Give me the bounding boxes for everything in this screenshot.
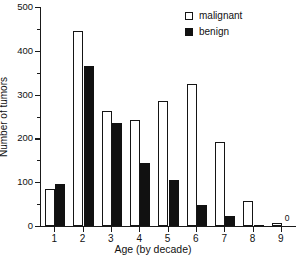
bar-malignant-9: [272, 223, 282, 226]
bar-malignant-3: [102, 111, 112, 226]
x-tick-mark: [83, 227, 84, 232]
x-tick-mark: [281, 227, 282, 232]
bar-malignant-2: [73, 31, 83, 226]
bar-benign-1: [55, 184, 65, 226]
bar-benign-6: [197, 205, 207, 226]
legend-swatch-benign-icon: [185, 28, 193, 36]
bar-benign-5: [169, 180, 179, 226]
legend: malignant benign: [185, 9, 242, 41]
y-tick-label: 300: [17, 90, 33, 100]
plot-area: 0: [41, 7, 296, 226]
y-minor-tick-mark: [37, 73, 40, 74]
legend-label-malignant: malignant: [199, 11, 242, 21]
x-tick-mark: [168, 227, 169, 232]
y-tick-label: 0: [28, 221, 33, 231]
y-tick-label: 500: [17, 2, 33, 12]
y-tick-label: 100: [17, 177, 33, 187]
x-tick-mark: [196, 227, 197, 232]
y-tick-mark: [35, 182, 40, 183]
y-minor-tick-mark: [37, 117, 40, 118]
legend-label-benign: benign: [199, 27, 229, 37]
y-tick-label: 400: [17, 46, 33, 56]
y-minor-tick-mark: [37, 29, 40, 30]
y-tick-mark: [35, 7, 40, 8]
y-minor-tick-mark: [37, 204, 40, 205]
bar-malignant-8: [243, 201, 253, 226]
legend-item-benign: benign: [185, 25, 242, 39]
bar-value-annotation: 0: [285, 214, 290, 223]
bar-chart-figure: Number of tumors 0100200300400500 0 1234…: [0, 0, 306, 259]
y-axis-label: Number of tumors: [0, 76, 9, 156]
bar-malignant-1: [45, 189, 55, 226]
bar-benign-8: [254, 225, 264, 226]
x-tick-mark: [54, 227, 55, 232]
y-tick-mark: [35, 138, 40, 139]
bar-malignant-7: [215, 142, 225, 226]
bar-benign-7: [225, 216, 235, 226]
bar-malignant-5: [158, 101, 168, 226]
y-tick-mark: [35, 51, 40, 52]
bar-benign-4: [140, 163, 150, 227]
legend-swatch-malignant-icon: [185, 12, 193, 20]
y-minor-tick-mark: [37, 160, 40, 161]
bar-malignant-6: [187, 84, 197, 226]
bar-benign-2: [84, 66, 94, 226]
x-tick-mark: [111, 227, 112, 232]
y-tick-label: 200: [17, 134, 33, 144]
x-axis-label: Age (by decade): [0, 243, 306, 255]
bar-benign-3: [112, 123, 122, 226]
y-tick-mark: [35, 226, 40, 227]
x-tick-mark: [224, 227, 225, 232]
y-tick-mark: [35, 95, 40, 96]
x-tick-mark: [253, 227, 254, 232]
legend-item-malignant: malignant: [185, 9, 242, 23]
bar-malignant-4: [130, 120, 140, 226]
x-tick-mark: [139, 227, 140, 232]
